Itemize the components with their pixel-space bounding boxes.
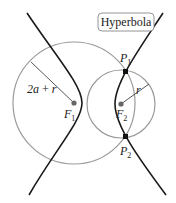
label-2a-plus-r: 2a + r: [27, 82, 57, 96]
label-f2: F2: [115, 107, 127, 123]
label-r: r: [136, 83, 141, 97]
label-f1: F1: [63, 107, 75, 123]
point-p1: [123, 69, 128, 74]
label-p1: P1: [119, 51, 131, 67]
hyperbola-diagram: Hyperbola 2a + r r F1 F2 P1 P2: [0, 0, 176, 203]
label-p2: P2: [119, 144, 131, 160]
focus-f2-dot: [118, 101, 123, 106]
point-p2: [123, 134, 128, 139]
hyperbola-title: Hyperbola: [101, 15, 152, 29]
focus-f1-dot: [71, 100, 76, 105]
